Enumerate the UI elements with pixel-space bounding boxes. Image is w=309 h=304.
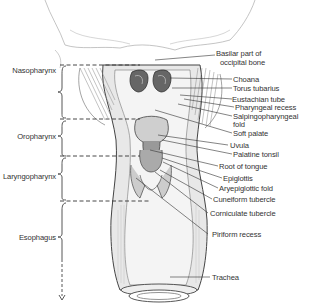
- region-label-oropharynx: Oropharynx: [0, 132, 56, 141]
- label-palatine-tonsil: Palatine tonsil: [233, 150, 279, 159]
- pharynx-diagram: Nasopharynx Oropharynx Laryngopharynx Es…: [0, 0, 309, 304]
- label-fold: fold: [233, 120, 245, 129]
- region-label-nasopharynx: Nasopharynx: [0, 66, 56, 75]
- label-trachea: Trachea: [212, 273, 239, 282]
- label-torus-tubarius: Torus tubarius: [233, 84, 279, 93]
- label-pharyngeal-recess: Pharyngeal recess: [235, 103, 296, 112]
- label-uvula: Uvula: [230, 141, 249, 150]
- label-aryepiglottic-fold: Aryepiglottic fold: [219, 184, 273, 193]
- label-cuneiform-tubercle: Cuneiform tubercle: [213, 195, 275, 204]
- label-piriform-recess: Piriform recess: [212, 230, 261, 239]
- label-basilar-part: Basilar part of: [216, 49, 261, 58]
- label-corniculate-tubercle: Corniculate tubercle: [210, 209, 276, 218]
- label-epiglottis: Epiglottis: [223, 174, 253, 183]
- region-label-laryngopharynx: Laryngopharynx: [0, 172, 56, 181]
- region-label-esophagus: Esophagus: [0, 233, 56, 242]
- label-occipital-bone: occipital bone: [220, 58, 265, 67]
- label-soft-palate: Soft palate: [233, 129, 268, 138]
- label-root-of-tongue: Root of tongue: [219, 162, 267, 171]
- label-choana: Choana: [233, 75, 259, 84]
